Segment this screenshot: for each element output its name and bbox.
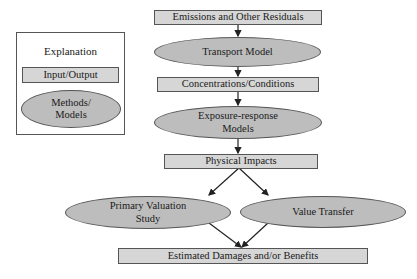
node-estimated-label: Estimated Damages and/or Benefits — [168, 251, 319, 262]
legend-methods-ellipse: Methods/ Models — [21, 90, 121, 128]
node-exposure-response: Exposure-response Models — [154, 106, 322, 139]
node-value-transfer: Value Transfer — [240, 196, 406, 228]
node-transport-label: Transport Model — [202, 46, 273, 58]
node-physical-impacts: Physical Impacts — [164, 154, 318, 169]
legend-input-output-label: Input/Output — [43, 70, 97, 81]
node-emissions: Emissions and Other Residuals — [154, 10, 322, 25]
legend-title: Explanation — [17, 45, 124, 57]
node-transport-model: Transport Model — [154, 37, 321, 67]
node-primary-valuation: Primary Valuation Study — [65, 196, 231, 229]
node-transfer-label: Value Transfer — [292, 206, 354, 218]
node-physical-label: Physical Impacts — [205, 156, 276, 167]
legend-input-output-box: Input/Output — [22, 67, 119, 83]
node-emissions-label: Emissions and Other Residuals — [173, 12, 304, 23]
node-primary-label: Primary Valuation Study — [110, 200, 187, 224]
node-concentrations-label: Concentrations/Conditions — [182, 79, 295, 90]
node-concentrations: Concentrations/Conditions — [157, 77, 319, 92]
node-estimated-damages: Estimated Damages and/or Benefits — [118, 248, 368, 264]
legend: Explanation Input/Output Methods/ Models — [16, 32, 125, 135]
legend-methods-label: Methods/ Models — [51, 97, 91, 121]
node-exposure-label: Exposure-response Models — [198, 110, 278, 134]
